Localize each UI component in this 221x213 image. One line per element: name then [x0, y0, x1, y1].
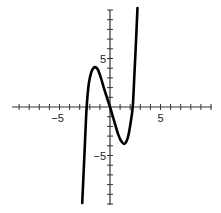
y-tick-label-5: 5: [100, 53, 106, 65]
axes: [12, 10, 212, 205]
x-tick-label-neg5: −5: [51, 112, 64, 124]
x-tick-label-5: 5: [157, 112, 163, 124]
y-tick-label-neg5: −5: [93, 150, 106, 162]
chart-plot-area: −5 5 5 −5: [0, 0, 221, 213]
